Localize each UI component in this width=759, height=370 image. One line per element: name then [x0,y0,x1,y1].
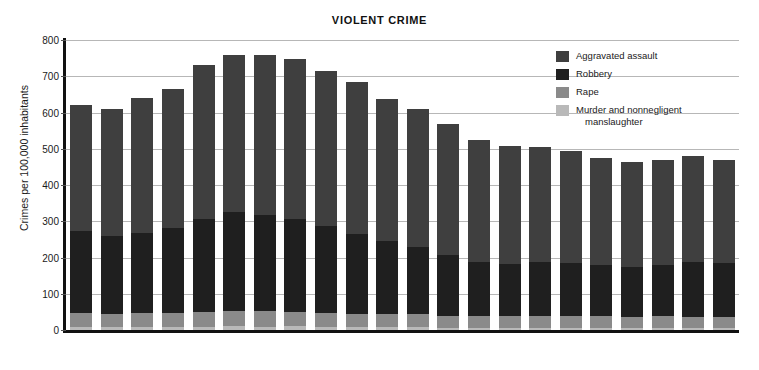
bar-segment[interactable] [407,314,429,327]
bar-segment[interactable] [529,316,551,328]
bar-segment[interactable] [70,327,92,330]
bar-segment[interactable] [590,265,612,316]
bar-segment[interactable] [499,328,521,330]
bar-segment[interactable] [131,98,153,233]
bar-segment[interactable] [682,328,704,330]
bar-segment[interactable] [621,328,643,330]
bar-segment[interactable] [407,327,429,330]
bar-segment[interactable] [376,241,398,314]
bar-segment[interactable] [284,326,306,330]
bar-segment[interactable] [468,328,490,330]
bar-segment[interactable] [70,231,92,313]
bar-group[interactable] [162,40,184,330]
bar-segment[interactable] [162,89,184,228]
bar-segment[interactable] [437,328,459,330]
bar-segment[interactable] [529,328,551,330]
bar-segment[interactable] [284,219,306,312]
bar-group[interactable] [315,40,337,330]
bar-segment[interactable] [468,262,490,316]
bar-segment[interactable] [713,317,735,328]
bar-group[interactable] [529,40,551,330]
bar-segment[interactable] [437,255,459,315]
bar-segment[interactable] [499,264,521,317]
bar-segment[interactable] [560,328,582,330]
bar-segment[interactable] [499,146,521,263]
bar-segment[interactable] [223,326,245,330]
bar-segment[interactable] [713,263,735,317]
bar-group[interactable] [254,40,276,330]
bar-segment[interactable] [193,312,215,327]
bar-segment[interactable] [652,316,674,328]
bar-segment[interactable] [162,313,184,327]
bar-segment[interactable] [284,59,306,219]
bar-segment[interactable] [70,105,92,231]
bar-segment[interactable] [590,328,612,330]
bar-segment[interactable] [70,313,92,327]
bar-segment[interactable] [315,226,337,312]
bar-segment[interactable] [315,313,337,327]
bar-segment[interactable] [590,158,612,265]
bar-segment[interactable] [713,160,735,263]
bar-segment[interactable] [437,124,459,255]
legend-item[interactable]: Murder and nonnegligentmanslaughter [556,104,756,127]
bar-segment[interactable] [346,234,368,314]
bar-segment[interactable] [254,311,276,327]
bar-segment[interactable] [223,212,245,311]
bar-segment[interactable] [162,327,184,330]
bar-segment[interactable] [376,314,398,327]
bar-segment[interactable] [346,327,368,330]
bar-segment[interactable] [652,328,674,330]
bar-segment[interactable] [590,316,612,328]
bar-segment[interactable] [621,162,643,267]
legend-item[interactable]: Robbery [556,68,756,81]
bar-group[interactable] [284,40,306,330]
bar-segment[interactable] [713,328,735,330]
bar-segment[interactable] [131,327,153,330]
bar-segment[interactable] [346,314,368,327]
bar-segment[interactable] [101,314,123,327]
legend-item[interactable]: Aggravated assault [556,50,756,63]
bar-segment[interactable] [284,312,306,327]
bar-segment[interactable] [407,109,429,247]
bar-segment[interactable] [101,327,123,330]
bar-group[interactable] [101,40,123,330]
bar-segment[interactable] [468,140,490,261]
bar-segment[interactable] [315,327,337,330]
bar-segment[interactable] [682,317,704,328]
bar-segment[interactable] [131,233,153,313]
bar-group[interactable] [193,40,215,330]
bar-segment[interactable] [101,109,123,237]
bar-group[interactable] [437,40,459,330]
bar-segment[interactable] [437,316,459,328]
bar-segment[interactable] [376,327,398,330]
bar-segment[interactable] [621,267,643,317]
bar-group[interactable] [468,40,490,330]
bar-segment[interactable] [682,156,704,262]
bar-segment[interactable] [254,327,276,330]
bar-segment[interactable] [682,262,704,316]
bar-segment[interactable] [560,151,582,263]
bar-segment[interactable] [131,313,153,327]
bar-group[interactable] [499,40,521,330]
bar-group[interactable] [131,40,153,330]
bar-segment[interactable] [529,147,551,263]
legend-item[interactable]: Rape [556,86,756,99]
bar-segment[interactable] [499,316,521,328]
bar-segment[interactable] [101,236,123,313]
bar-group[interactable] [223,40,245,330]
bar-segment[interactable] [560,263,582,316]
bar-segment[interactable] [223,55,245,212]
bar-segment[interactable] [193,327,215,330]
bar-segment[interactable] [162,228,184,313]
bar-segment[interactable] [193,219,215,312]
bar-group[interactable] [346,40,368,330]
bar-segment[interactable] [254,215,276,311]
bar-segment[interactable] [407,247,429,314]
bar-group[interactable] [376,40,398,330]
bar-segment[interactable] [254,55,276,215]
bar-segment[interactable] [376,99,398,241]
bar-group[interactable] [70,40,92,330]
bar-group[interactable] [407,40,429,330]
bar-segment[interactable] [223,311,245,326]
bar-segment[interactable] [652,265,674,316]
